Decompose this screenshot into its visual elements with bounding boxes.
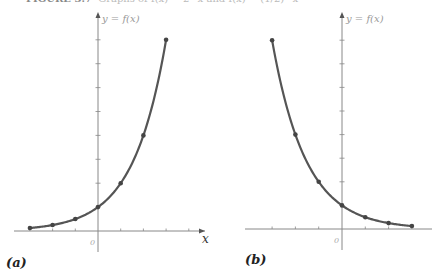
- x-axis-label: x: [202, 232, 209, 246]
- panel-label-a: (a): [6, 255, 27, 270]
- data-point: [340, 203, 345, 208]
- y-axis-label: y = f(x): [101, 13, 140, 24]
- panel-label-b: (b): [245, 252, 266, 267]
- data-point: [316, 180, 321, 185]
- data-point: [96, 205, 101, 210]
- origin-label: 0: [334, 236, 339, 245]
- data-point: [50, 223, 55, 228]
- origin-label: 0: [90, 238, 95, 247]
- data-point: [270, 38, 275, 43]
- data-point: [141, 133, 146, 138]
- data-point: [363, 215, 368, 220]
- data-point: [410, 224, 415, 229]
- y-axis-label: y = f(x): [345, 13, 384, 24]
- y-axis-arrow-icon: [96, 12, 101, 18]
- data-point: [164, 38, 169, 43]
- data-point: [73, 217, 78, 222]
- chart-canvas: xy = f(x)0y = f(x)0: [0, 0, 432, 273]
- data-point: [28, 226, 33, 231]
- y-axis-arrow-icon: [340, 12, 345, 18]
- data-point: [118, 181, 123, 186]
- data-point: [386, 221, 391, 226]
- data-point: [293, 132, 298, 137]
